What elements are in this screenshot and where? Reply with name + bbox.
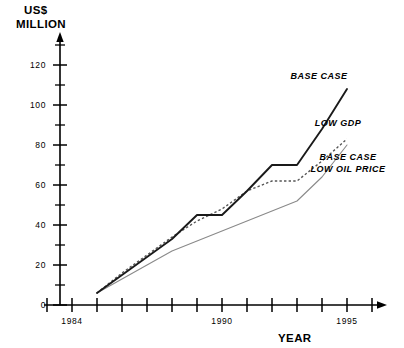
series-label-low-oil-price-line-2: LOW OIL PRICE <box>311 164 386 174</box>
series-line-low-oil-price <box>97 139 347 293</box>
y-label-100: 100 <box>30 100 46 110</box>
y-label-80: 80 <box>35 140 46 150</box>
y-axis-tick-labels: 0 20 40 60 80 100 120 <box>30 60 46 310</box>
y-axis-arrowhead <box>56 32 63 42</box>
y-label-120: 120 <box>30 60 46 70</box>
series-labels: BASE CASE LOW GDP BASE CASE LOW OIL PRIC… <box>290 71 385 174</box>
series-line-low-gdp <box>97 145 347 293</box>
x-axis-tick-labels: 1984 1990 1995 <box>61 316 357 326</box>
chart-container: US$ MILLION 0 2 <box>0 0 404 348</box>
line-chart: US$ MILLION 0 2 <box>0 0 404 348</box>
x-label-1995: 1995 <box>336 316 357 326</box>
x-label-1990: 1990 <box>211 316 232 326</box>
y-axis-title-line-1: US$ <box>24 4 48 16</box>
x-axis-arrowhead <box>377 301 387 308</box>
y-label-0: 0 <box>41 300 46 310</box>
series-label-low-oil-price-line-1: BASE CASE <box>319 152 377 162</box>
x-axis-title: YEAR <box>278 332 312 344</box>
series-label-low-gdp: LOW GDP <box>315 118 362 128</box>
y-label-20: 20 <box>35 260 46 270</box>
series-line-base-case <box>97 89 347 293</box>
y-axis-title-line-2: MILLION <box>16 18 66 30</box>
series-group <box>97 89 347 293</box>
y-label-60: 60 <box>35 180 46 190</box>
y-label-40: 40 <box>35 220 46 230</box>
series-label-base-case: BASE CASE <box>290 71 348 81</box>
x-label-1984: 1984 <box>61 316 82 326</box>
